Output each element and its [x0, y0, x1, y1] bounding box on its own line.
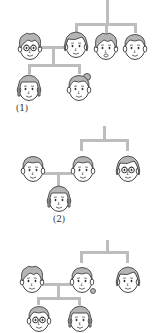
daughter-glasses-face	[25, 303, 53, 333]
connector	[80, 251, 129, 254]
daughter-face	[66, 303, 94, 333]
father-face	[18, 264, 46, 294]
connector	[126, 251, 129, 263]
aunt-face	[114, 264, 142, 294]
connector	[37, 297, 81, 300]
mother-ponytail-face	[68, 264, 96, 294]
connector	[80, 251, 83, 263]
